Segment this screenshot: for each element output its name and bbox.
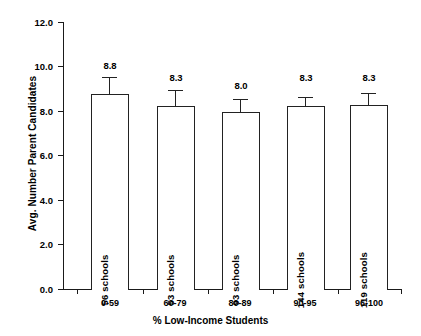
y-tick-label-2: 2.0 (7, 239, 53, 250)
error-bar-cap-upper-1 (168, 90, 183, 91)
bar-value-label-1: 8.3 (146, 72, 206, 83)
y-tick-label-8: 8.0 (7, 106, 53, 117)
x-tick-label-4: 96-100 (334, 298, 404, 308)
bar-value-label-2: 8.0 (211, 80, 271, 91)
x-tick-mark (401, 289, 402, 294)
x-tick-label-1: 60-79 (140, 298, 210, 308)
y-tick-label-6: 6.0 (7, 150, 53, 161)
bar-1: 53 schools (157, 106, 195, 290)
bar-0: 56 schools (91, 94, 129, 290)
y-axis-line (63, 22, 64, 290)
x-tick-label-3: 90-95 (270, 298, 340, 308)
bar-2: 93 schools (222, 112, 260, 290)
y-tick-label-12: 12.0 (7, 17, 53, 28)
error-bar-cap-upper-0 (102, 77, 117, 78)
bar-4: 119 schools (350, 105, 388, 290)
x-tick-mark (273, 289, 274, 294)
error-bar-cap-upper-2 (233, 99, 248, 100)
x-tick-mark (143, 289, 144, 294)
bar-value-label-3: 8.3 (276, 72, 336, 83)
y-tick-label-0: 0.0 (7, 284, 53, 295)
bar-chart: Avg. Number Parent Candidates 12.0 10.0 … (0, 0, 421, 336)
x-tick-label-2: 80-89 (205, 298, 275, 308)
bar-value-label-0: 8.8 (80, 60, 140, 71)
error-bar-cap-upper-3 (298, 97, 313, 98)
error-bar-cap-upper-4 (361, 93, 376, 94)
x-tick-mark (208, 289, 209, 294)
x-tick-label-0: 0-59 (75, 298, 145, 308)
y-tick-label-10: 10.0 (7, 61, 53, 72)
x-axis-title: % Low-Income Students (0, 315, 421, 326)
y-tick-label-4: 4.0 (7, 195, 53, 206)
bar-3: 144 schools (287, 106, 325, 290)
x-tick-mark (77, 289, 78, 294)
bar-value-label-4: 8.3 (339, 72, 399, 83)
x-tick-mark (338, 289, 339, 294)
